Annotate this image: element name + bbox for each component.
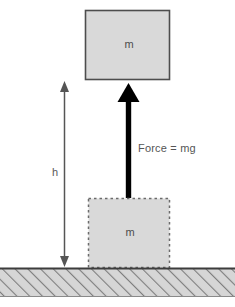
height-arrow-head-top	[60, 81, 69, 92]
mass-label-bottom: m	[119, 226, 141, 238]
force-label: Force = mg	[138, 142, 196, 154]
force-arrow	[118, 83, 140, 198]
ground-fill	[0, 268, 235, 297]
ground-hatched	[0, 268, 235, 297]
mass-label-top: m	[118, 38, 140, 50]
force-arrow-head	[118, 83, 140, 102]
height-label: h	[48, 166, 62, 178]
physics-diagram: m m Force = mg h	[0, 0, 235, 307]
height-arrow-head-bottom	[60, 256, 69, 267]
